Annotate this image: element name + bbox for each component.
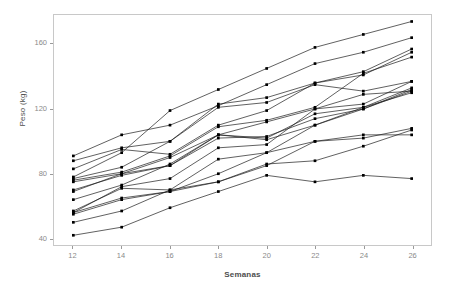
data-point-marker — [362, 137, 365, 140]
data-point-marker — [265, 151, 268, 154]
data-point-marker — [265, 143, 268, 146]
series-line — [72, 90, 413, 214]
series-line — [72, 20, 413, 178]
data-point-marker — [72, 234, 75, 237]
y-tick-mark — [50, 239, 53, 240]
data-point-marker — [120, 172, 123, 175]
data-point-marker — [72, 211, 75, 214]
x-tick-mark — [121, 246, 122, 249]
data-point-marker — [169, 163, 172, 166]
data-point-marker — [314, 62, 317, 65]
data-point-marker — [265, 83, 268, 86]
x-tick-label: 18 — [203, 251, 233, 260]
series-line — [72, 90, 413, 201]
data-point-marker — [120, 134, 123, 137]
data-point-marker — [410, 177, 413, 180]
x-tick-mark — [413, 246, 414, 249]
series-line — [72, 129, 413, 224]
series-polyline — [73, 81, 411, 178]
data-point-marker — [169, 109, 172, 112]
data-point-marker — [72, 221, 75, 224]
data-point-marker — [169, 124, 172, 127]
data-point-marker — [362, 93, 365, 96]
data-point-marker — [72, 177, 75, 180]
data-point-marker — [217, 172, 220, 175]
data-point-marker — [314, 46, 317, 49]
series-polyline — [73, 21, 411, 176]
x-tick-label: 22 — [300, 251, 330, 260]
x-tick-mark — [170, 246, 171, 249]
x-tick-label: 14 — [106, 251, 136, 260]
data-point-marker — [265, 135, 268, 138]
data-point-marker — [265, 121, 268, 124]
plot-panel — [53, 14, 432, 246]
y-tick-label: 160 — [7, 38, 47, 47]
x-tick-label: 24 — [349, 251, 379, 260]
data-point-marker — [120, 210, 123, 213]
x-tick-label: 16 — [155, 251, 185, 260]
x-tick-mark — [364, 246, 365, 249]
data-point-marker — [265, 67, 268, 70]
series-polyline — [73, 130, 411, 222]
data-point-marker — [362, 106, 365, 109]
x-axis-title: Semanas — [53, 270, 432, 279]
data-point-marker — [362, 103, 365, 106]
data-point-marker — [217, 158, 220, 161]
data-point-marker — [410, 51, 413, 54]
data-point-marker — [410, 91, 413, 94]
data-point-marker — [217, 180, 220, 183]
data-point-marker — [362, 145, 365, 148]
data-point-marker — [120, 151, 123, 154]
data-point-marker — [314, 159, 317, 162]
x-tick-mark — [72, 246, 73, 249]
x-tick-mark — [267, 246, 268, 249]
data-point-marker — [410, 56, 413, 59]
data-point-marker — [217, 125, 220, 128]
data-point-marker — [314, 83, 317, 86]
data-point-marker — [410, 134, 413, 137]
data-point-marker — [410, 129, 413, 132]
data-point-marker — [120, 148, 123, 151]
data-point-marker — [410, 20, 413, 23]
y-tick-mark — [50, 174, 53, 175]
data-point-marker — [217, 146, 220, 149]
data-point-marker — [217, 134, 220, 137]
data-point-marker — [169, 190, 172, 193]
series-line — [72, 56, 413, 182]
y-tick-label: 120 — [7, 104, 47, 113]
data-point-marker — [265, 164, 268, 167]
x-tick-mark — [218, 246, 219, 249]
data-point-marker — [169, 206, 172, 209]
data-point-marker — [362, 51, 365, 54]
series-polyline — [73, 52, 411, 169]
series-line — [72, 88, 413, 193]
data-point-marker — [314, 117, 317, 120]
data-point-marker — [217, 103, 220, 106]
series-line — [72, 174, 413, 237]
data-point-marker — [72, 190, 75, 193]
y-tick-label: 40 — [7, 234, 47, 243]
data-point-marker — [72, 198, 75, 201]
series-polyline — [73, 81, 411, 181]
data-point-marker — [362, 174, 365, 177]
x-tick-label: 12 — [57, 251, 87, 260]
data-point-marker — [265, 174, 268, 177]
data-point-marker — [314, 124, 317, 127]
data-point-marker — [72, 180, 75, 183]
data-point-marker — [314, 112, 317, 115]
y-tick-label: 80 — [7, 169, 47, 178]
y-tick-mark — [50, 109, 53, 110]
data-point-marker — [314, 180, 317, 183]
data-point-marker — [217, 190, 220, 193]
x-tick-mark — [315, 246, 316, 249]
data-point-marker — [72, 155, 75, 158]
data-point-marker — [217, 137, 220, 140]
data-point-marker — [72, 168, 75, 171]
data-point-marker — [217, 106, 220, 109]
data-point-marker — [217, 88, 220, 91]
data-point-marker — [362, 134, 365, 137]
data-point-marker — [265, 96, 268, 99]
plot-area — [54, 15, 431, 245]
data-point-marker — [362, 33, 365, 36]
data-point-marker — [72, 159, 75, 162]
